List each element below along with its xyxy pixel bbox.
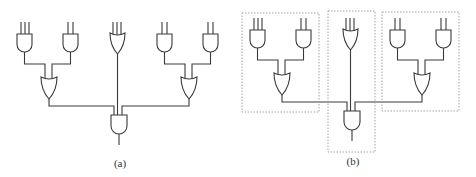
wire [282,95,347,112]
panel-a-caption: (a) [114,157,126,169]
or-gate-right-icon [181,77,197,99]
or-gate-left-icon [274,73,290,95]
and-gate-left-1-icon [17,34,32,52]
right-module-box [382,12,459,111]
and-gate-output-icon [111,115,127,134]
wire [52,52,71,78]
logic-circuit-diagram [0,0,476,177]
wire [122,99,189,116]
or-gate-right-icon [414,73,430,95]
wire [398,48,419,74]
and-gate-output-icon [344,111,360,130]
wire [25,52,46,78]
wire [355,95,422,112]
wire [49,99,114,116]
and-gate-right-2-icon [436,30,451,48]
or-gate-center-icon [343,29,358,50]
panel-b-circuit [250,18,451,141]
and-gate-right-1-icon [390,30,405,48]
panel-b-caption: (b) [347,155,360,167]
panel-a-circuit [17,22,218,145]
or-gate-left-icon [41,77,57,99]
wire [258,48,279,74]
wire [192,52,211,78]
and-gate-left-2-icon [296,30,311,48]
wire [425,48,444,74]
and-gate-left-2-icon [63,34,78,52]
and-gate-right-1-icon [157,34,172,52]
wire [285,48,304,74]
wire [165,52,186,78]
and-gate-right-2-icon [203,34,218,52]
and-gate-left-1-icon [250,30,265,48]
or-gate-center-icon [110,33,125,54]
